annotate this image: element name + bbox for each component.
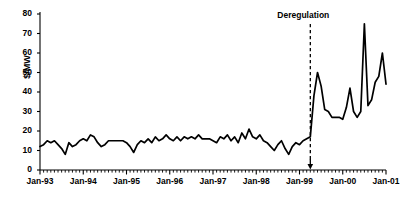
axis-lines bbox=[40, 12, 386, 170]
axis-ticks bbox=[37, 14, 386, 175]
annotation-marks bbox=[308, 24, 314, 170]
price-series-line bbox=[40, 24, 386, 155]
